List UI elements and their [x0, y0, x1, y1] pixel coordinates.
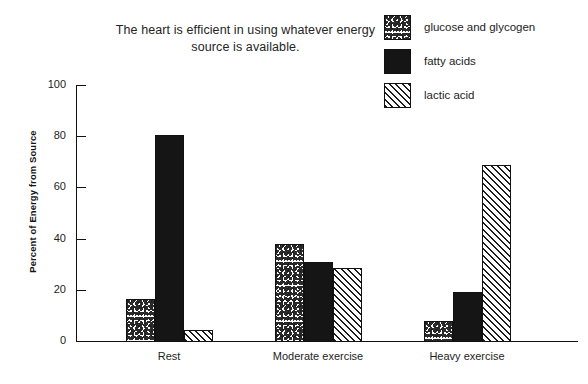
bar-chart-figure: The heart is efficient in using whatever…: [0, 0, 588, 384]
y-tick-label-0: 0: [32, 334, 66, 346]
legend-swatch-solid-icon: [384, 49, 411, 74]
y-tick-label-40: 40: [32, 232, 66, 244]
legend-label-fatty-acids: fatty acids: [424, 55, 476, 67]
legend-label-lactic-acid: lactic acid: [424, 89, 475, 101]
legend-item-lactic-acid: lactic acid: [384, 78, 584, 112]
chart-caption: The heart is efficient in using whatever…: [108, 22, 383, 56]
y-tick-mark-60: [77, 187, 86, 188]
y-tick-mark-100: [77, 85, 86, 86]
y-tick-label-20: 20: [32, 283, 66, 295]
x-tick-label-moderate-exercise: Moderate exercise: [273, 350, 364, 362]
bar-rest-glucose-and-glycogen: [126, 299, 155, 342]
y-tick-label-100: 100: [32, 78, 66, 90]
y-tick-label-60: 60: [32, 180, 66, 192]
bar-rest-fatty-acids: [155, 135, 184, 342]
x-tick-label-rest: Rest: [158, 350, 181, 362]
bar-heavy-exercise-lactic-acid: [482, 165, 511, 342]
legend-label-glucose-and-glycogen: glucose and glycogen: [424, 21, 535, 33]
bar-moderate-exercise-fatty-acids: [304, 262, 333, 342]
bar-rest-lactic-acid: [184, 330, 213, 342]
bar-heavy-exercise-fatty-acids: [453, 292, 482, 342]
chart-legend: glucose and glycogen fatty acids lactic …: [384, 10, 584, 112]
bar-heavy-exercise-glucose-and-glycogen: [424, 321, 453, 342]
y-tick-label-80: 80: [32, 129, 66, 141]
bar-moderate-exercise-lactic-acid: [333, 268, 362, 342]
legend-swatch-stipple-icon: [384, 15, 411, 40]
legend-swatch-hatch-icon: [384, 83, 411, 108]
y-tick-mark-80: [77, 136, 86, 137]
legend-item-fatty-acids: fatty acids: [384, 44, 584, 78]
y-tick-mark-40: [77, 239, 86, 240]
y-tick-mark-20: [77, 290, 86, 291]
bar-moderate-exercise-glucose-and-glycogen: [275, 244, 304, 342]
legend-item-glucose-and-glycogen: glucose and glycogen: [384, 10, 584, 44]
y-axis-line: [76, 85, 77, 342]
x-tick-label-heavy-exercise: Heavy exercise: [429, 350, 504, 362]
